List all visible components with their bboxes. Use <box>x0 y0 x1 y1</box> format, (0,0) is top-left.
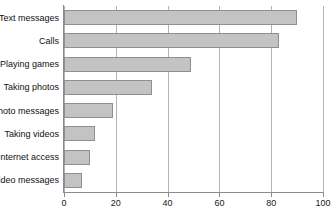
bar-chart: Text messages Calls Playing games Taking… <box>0 0 336 216</box>
x-tick <box>168 193 169 197</box>
x-tick-label: 60 <box>214 198 224 208</box>
bar-row: Internet access <box>0 146 336 169</box>
x-tick-label: 100 <box>315 198 330 208</box>
bar-row: Taking videos <box>0 122 336 145</box>
bar-internet-access <box>64 150 90 165</box>
bar-row: Video messages <box>0 169 336 192</box>
category-label: Internet access <box>0 152 63 162</box>
bar-taking-photos <box>64 80 152 95</box>
bar-row: Photo messages <box>0 99 336 122</box>
bar-row: Taking photos <box>0 76 336 99</box>
category-label: Taking photos <box>0 82 63 92</box>
bar-row: Text messages <box>0 6 336 29</box>
category-label: Text messages <box>0 13 63 23</box>
x-tick <box>64 193 65 197</box>
category-label: Photo messages <box>0 106 63 116</box>
x-tick-label: 0 <box>61 198 66 208</box>
bar-row: Calls <box>0 29 336 52</box>
bar-calls <box>64 33 279 48</box>
category-label: Taking videos <box>0 129 63 139</box>
category-label: Video messages <box>0 175 63 185</box>
bar-video-messages <box>64 173 82 188</box>
bar-rows: Text messages Calls Playing games Taking… <box>0 6 336 192</box>
y-axis-line <box>63 5 64 193</box>
bar-row: Playing games <box>0 53 336 76</box>
x-tick-label: 80 <box>266 198 276 208</box>
x-tick-label: 20 <box>111 198 121 208</box>
x-axis-line <box>63 192 324 193</box>
x-tick <box>219 193 220 197</box>
bar-photo-messages <box>64 103 113 118</box>
x-tick <box>271 193 272 197</box>
category-label: Calls <box>0 36 63 46</box>
bar-playing-games <box>64 57 191 72</box>
x-tick <box>323 193 324 197</box>
bar-taking-videos <box>64 126 95 141</box>
x-tick-label: 40 <box>163 198 173 208</box>
x-tick <box>116 193 117 197</box>
bar-text-messages <box>64 10 297 25</box>
category-label: Playing games <box>0 59 63 69</box>
